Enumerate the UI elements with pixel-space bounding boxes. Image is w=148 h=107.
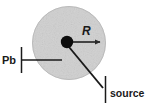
point-source-dot [61, 36, 73, 48]
radius-label: R [82, 24, 91, 38]
diagram-canvas: Pb R source [0, 0, 148, 107]
figure-container: Pb R source [0, 0, 148, 107]
source-label: source [110, 87, 145, 99]
pb-label: Pb [2, 54, 16, 66]
